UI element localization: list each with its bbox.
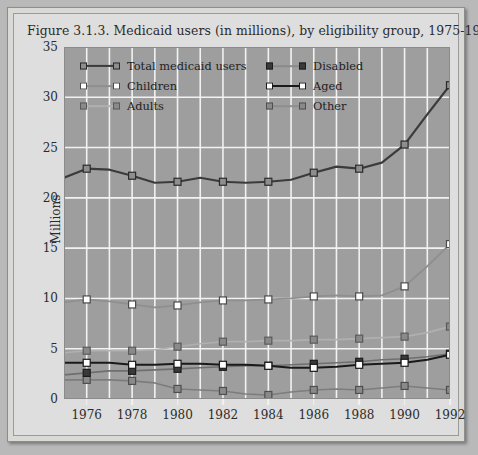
data-point-marker (356, 165, 363, 172)
data-point-marker (219, 297, 226, 304)
data-point-marker (83, 369, 90, 376)
y-tick-label: 5 (50, 342, 58, 356)
x-tick-label: 1982 (208, 408, 239, 422)
data-point-marker (356, 361, 363, 368)
data-point-marker (401, 382, 408, 389)
data-point-marker (401, 141, 408, 148)
x-tick-label: 1992 (435, 408, 466, 422)
data-point-marker (174, 178, 181, 185)
data-point-marker (265, 391, 272, 398)
data-point-marker (356, 293, 363, 300)
figure-inner-frame: Figure 3.1.3. Medicaid users (in million… (13, 13, 459, 436)
data-point-marker (310, 336, 317, 343)
chart-svg (64, 47, 450, 399)
data-point-marker (219, 178, 226, 185)
data-point-marker (356, 386, 363, 393)
data-point-marker (83, 376, 90, 383)
data-point-marker (83, 165, 90, 172)
x-tick-label: 1980 (162, 408, 193, 422)
x-tick-mark (268, 399, 270, 405)
plot-area (64, 47, 450, 399)
data-point-marker (129, 377, 136, 384)
y-tick-label: 15 (43, 241, 58, 255)
x-tick-mark (449, 399, 451, 405)
data-point-marker (129, 361, 136, 368)
data-point-marker (174, 302, 181, 309)
data-point-marker (129, 301, 136, 308)
data-point-marker (83, 359, 90, 366)
data-point-marker (401, 359, 408, 366)
x-tick-label: 1978 (117, 408, 148, 422)
data-point-marker (401, 283, 408, 290)
x-tick-label: 1988 (344, 408, 375, 422)
x-tick-mark (131, 399, 133, 405)
data-point-marker (174, 343, 181, 350)
data-point-marker (265, 362, 272, 369)
plot-wrap: 05101520253035 1976197819801982198419861… (64, 47, 450, 399)
data-point-marker (265, 296, 272, 303)
x-tick-label: 1984 (253, 408, 284, 422)
data-point-marker (219, 387, 226, 394)
x-tick-mark (404, 399, 406, 405)
y-tick-label: 35 (43, 40, 58, 54)
x-tick-label: 1990 (389, 408, 420, 422)
x-tick-mark (313, 399, 315, 405)
y-tick-label: 10 (43, 291, 58, 305)
data-point-marker (174, 360, 181, 367)
data-point-marker (310, 386, 317, 393)
x-tick-label: 1976 (71, 408, 102, 422)
data-point-marker (310, 169, 317, 176)
data-point-marker (129, 347, 136, 354)
y-tick-label: 25 (43, 141, 58, 155)
plot-background (64, 47, 450, 399)
data-point-marker (83, 347, 90, 354)
x-tick-mark (177, 399, 179, 405)
chart-title: Figure 3.1.3. Medicaid users (in million… (27, 23, 447, 38)
data-point-marker (265, 337, 272, 344)
x-tick-mark (86, 399, 88, 405)
data-point-marker (129, 172, 136, 179)
y-tick-label: 20 (43, 191, 58, 205)
data-point-marker (356, 335, 363, 342)
data-point-marker (83, 296, 90, 303)
x-tick-mark (222, 399, 224, 405)
data-point-marker (310, 293, 317, 300)
x-tick-mark (358, 399, 360, 405)
y-tick-label: 0 (50, 392, 58, 406)
x-tick-label: 1986 (298, 408, 329, 422)
y-tick-label: 30 (43, 90, 58, 104)
figure-frame: Figure 3.1.3. Medicaid users (in million… (7, 7, 465, 442)
data-point-marker (219, 361, 226, 368)
data-point-marker (401, 333, 408, 340)
data-point-marker (265, 178, 272, 185)
data-point-marker (219, 338, 226, 345)
data-point-marker (174, 385, 181, 392)
data-point-marker (310, 364, 317, 371)
